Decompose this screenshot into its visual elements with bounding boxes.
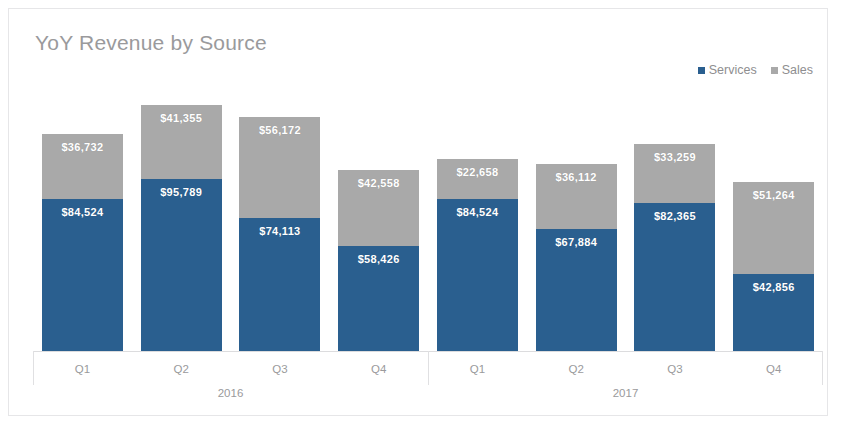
axis-group-divider (822, 351, 823, 385)
legend-item-sales[interactable]: Sales (771, 63, 813, 77)
legend-swatch-services (698, 67, 705, 74)
bar-segment-sales[interactable]: $36,732 (42, 134, 123, 200)
bar-value-label-services: $58,426 (338, 253, 419, 265)
axis-group-divider (33, 351, 34, 385)
bar-2016-Q1[interactable]: $36,732$84,524 (42, 134, 123, 352)
bar-value-label-services: $74,113 (239, 225, 320, 237)
axis-year-label-2016: 2016 (33, 387, 428, 399)
axis-label-2016-Q2: Q2 (132, 363, 231, 375)
bar-segment-services[interactable]: $74,113 (239, 218, 320, 351)
chart-legend: Services Sales (698, 63, 813, 77)
bar-2016-Q3[interactable]: $56,172$74,113 (239, 117, 320, 351)
bar-value-label-services: $82,365 (634, 210, 715, 222)
chart-title: YoY Revenue by Source (35, 31, 267, 55)
axis-label-2016-Q3: Q3 (231, 363, 330, 375)
axis-label-2016-Q1: Q1 (33, 363, 132, 375)
bar-segment-services[interactable]: $82,365 (634, 203, 715, 351)
bar-2016-Q4[interactable]: $42,558$58,426 (338, 170, 419, 351)
bar-segment-services[interactable]: $84,524 (437, 199, 518, 351)
bar-segment-sales[interactable]: $22,658 (437, 159, 518, 200)
chart-container: YoY Revenue by Source Services Sales $36… (8, 8, 828, 416)
bar-2016-Q2[interactable]: $41,355$95,789 (141, 105, 222, 351)
bar-segment-sales[interactable]: $56,172 (239, 117, 320, 218)
bar-value-label-sales: $41,355 (141, 112, 222, 124)
bar-value-label-services: $84,524 (437, 206, 518, 218)
bar-value-label-services: $67,884 (536, 236, 617, 248)
bar-value-label-sales: $42,558 (338, 177, 419, 189)
bar-segment-services[interactable]: $84,524 (42, 199, 123, 351)
bar-value-label-sales: $56,172 (239, 124, 320, 136)
bar-2017-Q2[interactable]: $36,112$67,884 (536, 164, 617, 351)
bar-2017-Q4[interactable]: $51,264$42,856 (733, 182, 814, 351)
axis-label-2017-Q1: Q1 (428, 363, 527, 375)
bar-value-label-sales: $22,658 (437, 166, 518, 178)
bar-2017-Q1[interactable]: $22,658$84,524 (437, 159, 518, 351)
bar-segment-services[interactable]: $67,884 (536, 229, 617, 351)
bar-value-label-sales: $36,732 (42, 141, 123, 153)
bar-value-label-sales: $33,259 (634, 151, 715, 163)
axis-label-2017-Q4: Q4 (724, 363, 823, 375)
legend-label-sales: Sales (782, 63, 813, 77)
bar-segment-sales[interactable]: $33,259 (634, 144, 715, 204)
bar-segment-sales[interactable]: $36,112 (536, 164, 617, 229)
category-axis: Q1Q2Q3Q42016Q1Q2Q3Q42017 (33, 351, 823, 407)
plot-area: $36,732$84,524$41,355$95,789$56,172$74,1… (33, 105, 823, 351)
bar-segment-services[interactable]: $42,856 (733, 274, 814, 351)
legend-swatch-sales (771, 67, 778, 74)
bar-segment-sales[interactable]: $51,264 (733, 182, 814, 274)
bar-value-label-sales: $36,112 (536, 171, 617, 183)
bar-2017-Q3[interactable]: $33,259$82,365 (634, 144, 715, 351)
bar-segment-sales[interactable]: $42,558 (338, 170, 419, 246)
legend-item-services[interactable]: Services (698, 63, 757, 77)
bar-value-label-sales: $51,264 (733, 189, 814, 201)
bar-segment-sales[interactable]: $41,355 (141, 105, 222, 179)
legend-label-services: Services (709, 63, 757, 77)
axis-year-label-2017: 2017 (428, 387, 823, 399)
bar-value-label-services: $95,789 (141, 186, 222, 198)
axis-group-divider (428, 351, 429, 385)
bar-segment-services[interactable]: $95,789 (141, 179, 222, 351)
axis-label-2017-Q2: Q2 (527, 363, 626, 375)
axis-label-2017-Q3: Q3 (626, 363, 725, 375)
axis-label-2016-Q4: Q4 (329, 363, 428, 375)
bar-value-label-services: $84,524 (42, 206, 123, 218)
bar-segment-services[interactable]: $58,426 (338, 246, 419, 351)
bar-value-label-services: $42,856 (733, 281, 814, 293)
